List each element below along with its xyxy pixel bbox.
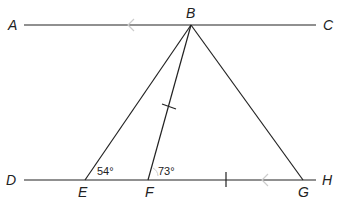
point-label-h: H bbox=[322, 172, 333, 188]
point-label-f: F bbox=[145, 184, 155, 200]
angle-label-e: 54° bbox=[97, 165, 114, 177]
point-label-a: A bbox=[7, 17, 17, 33]
point-label-g: G bbox=[298, 184, 309, 200]
geometry-diagram: A B C D E F G H 54° 73° bbox=[0, 0, 347, 207]
point-label-b: B bbox=[186, 5, 195, 21]
segment-be bbox=[85, 25, 191, 180]
point-label-d: D bbox=[6, 172, 16, 188]
segment-bg bbox=[191, 25, 303, 180]
angle-label-f: 73° bbox=[158, 165, 175, 177]
point-label-c: C bbox=[323, 17, 334, 33]
point-label-e: E bbox=[78, 184, 88, 200]
segment-bf bbox=[148, 25, 191, 180]
